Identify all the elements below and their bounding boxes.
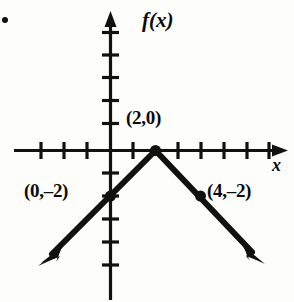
y-axis-label: f(x) <box>142 8 173 33</box>
marker-vertex <box>150 145 161 156</box>
vertex-point-label: (2,0) <box>126 107 161 129</box>
graph-figure: f(x) x (2,0) (0,–2) (4,–2) <box>0 0 294 302</box>
left-point-label: (0,–2) <box>24 180 68 202</box>
coordinate-plane <box>0 0 294 302</box>
marker-right-point <box>195 191 206 202</box>
y-axis <box>102 11 119 300</box>
data-point-markers <box>105 145 206 202</box>
marker-left-point <box>105 191 116 202</box>
x-axis-label: x <box>272 155 281 176</box>
function-curve <box>38 151 265 267</box>
right-point-label: (4,–2) <box>207 180 251 202</box>
